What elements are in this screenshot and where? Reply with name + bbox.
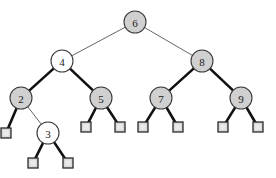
tree-graphic: 64825793 <box>0 0 276 178</box>
nil-leaf-inner <box>83 124 89 130</box>
nil-leaf-inner <box>117 124 123 130</box>
edge-6-8 <box>145 28 193 56</box>
edge-3-nil-left <box>35 143 43 158</box>
edge-5-nil-left <box>89 108 96 122</box>
nil-leaf-l9R[interactable] <box>253 122 263 132</box>
edge-4-5 <box>70 69 93 91</box>
edge-2-nil-left <box>8 108 17 128</box>
nil-leaf-l9L[interactable] <box>218 122 228 132</box>
node-circle-3 <box>37 122 59 144</box>
node-circle-8 <box>191 50 213 72</box>
node-circle-6 <box>124 11 146 33</box>
node-circle-7 <box>150 87 172 109</box>
edge-9-nil-left <box>226 107 235 122</box>
edge-5-nil-right <box>107 107 117 122</box>
edge-2-3 <box>28 107 42 125</box>
node-circle-5 <box>90 87 112 109</box>
tree-node-7[interactable]: 7 <box>150 87 172 109</box>
edge-7-nil-left <box>146 107 155 122</box>
tree-node-4[interactable]: 4 <box>51 50 73 72</box>
node-circle-4 <box>51 50 73 72</box>
nil-leaf-l2L[interactable] <box>1 128 11 138</box>
nil-leaf-l3L[interactable] <box>28 158 38 168</box>
node-circle-2 <box>10 87 32 109</box>
tree-diagram-canvas: 64825793 <box>0 0 276 178</box>
edge-3-nil-right <box>54 142 65 158</box>
nil-leaf-inner <box>175 124 181 130</box>
edge-8-7 <box>169 68 194 90</box>
nil-leaf-l5R[interactable] <box>115 122 125 132</box>
nil-leaf-l3R[interactable] <box>63 158 73 168</box>
nil-leaf-inner <box>30 160 36 166</box>
nil-leaf-inner <box>220 124 226 130</box>
edge-7-nil-right <box>167 107 176 122</box>
nil-leaf-inner <box>140 124 146 130</box>
node-layer: 64825793 <box>1 11 263 168</box>
nil-leaf-inner <box>255 124 261 130</box>
nil-leaf-l5L[interactable] <box>81 122 91 132</box>
edge-8-9 <box>210 69 233 91</box>
edge-4-2 <box>29 68 54 90</box>
tree-node-5[interactable]: 5 <box>90 87 112 109</box>
tree-node-6[interactable]: 6 <box>124 11 146 33</box>
tree-node-3[interactable]: 3 <box>37 122 59 144</box>
edge-9-nil-right <box>247 107 256 122</box>
tree-node-2[interactable]: 2 <box>10 87 32 109</box>
tree-node-8[interactable]: 8 <box>191 50 213 72</box>
nil-leaf-l7R[interactable] <box>173 122 183 132</box>
edge-6-4 <box>72 27 126 56</box>
nil-leaf-inner <box>3 130 9 136</box>
nil-leaf-inner <box>65 160 71 166</box>
tree-node-9[interactable]: 9 <box>230 87 252 109</box>
nil-leaf-l7L[interactable] <box>138 122 148 132</box>
node-circle-9 <box>230 87 252 109</box>
